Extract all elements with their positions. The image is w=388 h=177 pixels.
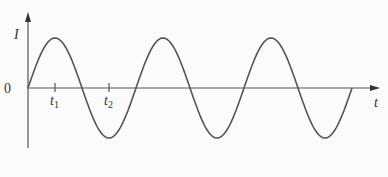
tick-label-2: t2 xyxy=(104,93,113,110)
sinusoid-diagram: t1t2 I 0 t xyxy=(0,0,388,177)
tick-label-1: t1 xyxy=(50,93,59,110)
y-axis-label: I xyxy=(13,27,20,42)
origin-label: 0 xyxy=(4,81,11,96)
x-axis-label: t xyxy=(374,95,379,110)
y-axis-arrow-icon xyxy=(25,12,31,22)
x-axis-arrow-icon xyxy=(370,85,380,91)
